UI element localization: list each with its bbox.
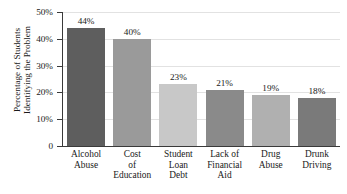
x-axis-label: DrunkDriving [289,149,345,170]
y-axis-tick-label: 10% [36,114,53,124]
x-axis-line [62,146,340,147]
y-axis-tick-mark [57,146,63,147]
bar-value-label: 40% [102,27,162,37]
y-axis-tick-label: 40% [36,34,53,44]
bar[interactable] [206,90,244,146]
x-axis-label-line: Aid [197,170,253,181]
bar[interactable] [298,98,336,146]
y-axis-tick-label: 20% [36,87,53,97]
y-axis-tick-label: 0 [48,141,53,151]
bar[interactable] [113,39,151,146]
y-axis-title-line-1: Percentage of Students [12,28,22,112]
bar-value-label: 18% [287,86,347,96]
bar[interactable] [252,95,290,146]
gridline [63,12,340,13]
y-axis-title: Percentage of Students Identifying the P… [7,0,37,140]
bar-chart: Percentage of Students Identifying the P… [0,0,347,194]
x-axis-label-line: Driving [289,160,345,171]
x-axis-label-line: Drunk [289,149,345,160]
y-axis-title-line-2: Identifying the Problem [22,26,32,114]
y-axis-tick-label: 30% [36,61,53,71]
bar[interactable] [159,84,197,146]
bar[interactable] [67,28,105,146]
bar-value-label: 44% [56,16,116,26]
y-axis-tick-label: 50% [36,7,53,17]
